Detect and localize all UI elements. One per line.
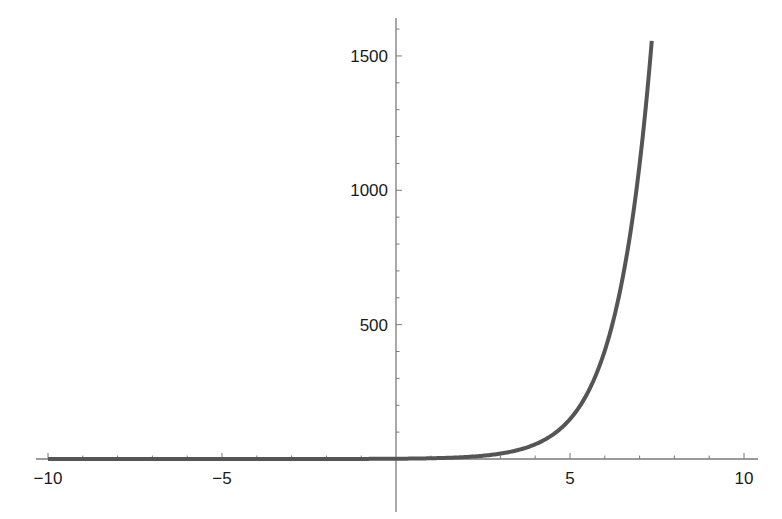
y-tick-label: 1500 — [350, 47, 388, 66]
x-tick-label: 5 — [565, 469, 574, 488]
chart-plot: −10−5510 50010001500 — [0, 0, 782, 519]
y-tick-label: 1000 — [350, 181, 388, 200]
x-tick-labels: −10−5510 — [34, 469, 754, 488]
y-tick-labels: 50010001500 — [350, 47, 388, 335]
x-tick-label: −5 — [212, 469, 231, 488]
x-tick-label: −10 — [34, 469, 63, 488]
y-tick-label: 500 — [360, 316, 388, 335]
y-axis — [396, 18, 402, 512]
x-tick-label: 10 — [735, 469, 754, 488]
exp-curve — [48, 41, 652, 459]
